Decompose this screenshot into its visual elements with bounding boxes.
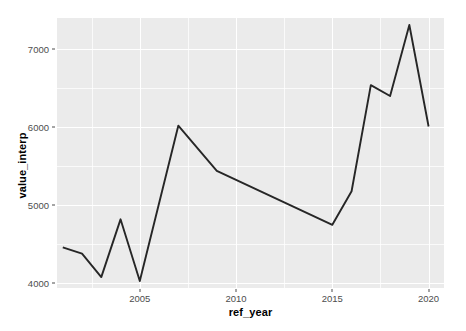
y-tick-label: 6000 xyxy=(16,122,55,133)
x-tick-mark xyxy=(236,289,237,292)
y-tick-mark xyxy=(52,283,55,284)
y-tick-label: 4000 xyxy=(16,278,55,289)
y-tick-mark xyxy=(52,127,55,128)
x-tick-label: 2015 xyxy=(322,293,343,304)
x-tick-mark xyxy=(332,289,333,292)
x-tick-label: 2010 xyxy=(225,293,246,304)
plot-panel xyxy=(57,18,444,288)
data-series-svg xyxy=(57,18,444,288)
value-interp-line xyxy=(63,25,429,281)
x-axis: 2005201020152020 xyxy=(57,289,444,305)
x-axis-title: ref_year xyxy=(57,306,444,318)
y-axis: 4000500060007000 xyxy=(22,18,55,288)
y-tick-label: 7000 xyxy=(16,44,55,55)
x-tick-mark xyxy=(428,289,429,292)
x-tick-label: 2020 xyxy=(418,293,439,304)
x-tick-mark xyxy=(139,289,140,292)
y-tick-mark xyxy=(52,49,55,50)
chart-plot-area: value_interp ref_year 4000500060007000 2… xyxy=(0,0,466,331)
y-tick-mark xyxy=(52,205,55,206)
x-tick-label: 2005 xyxy=(129,293,150,304)
y-tick-label: 5000 xyxy=(16,200,55,211)
